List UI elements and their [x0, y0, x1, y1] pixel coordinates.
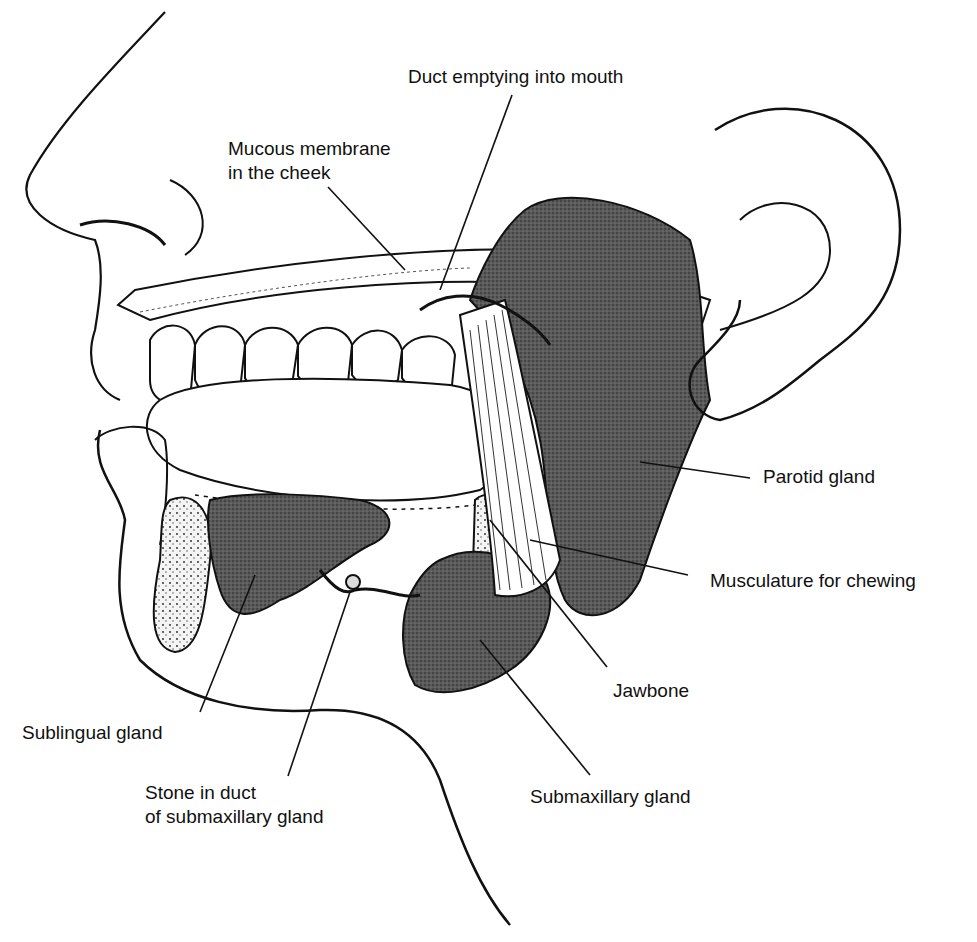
label-stone-in-duct-line2: of submaxillary gland — [145, 806, 323, 828]
label-parotid-gland: Parotid gland — [763, 466, 875, 488]
label-mucous-membrane-line2: in the cheek — [228, 162, 330, 184]
nostril — [80, 221, 165, 245]
label-sublingual-gland: Sublingual gland — [22, 722, 163, 744]
submaxillary-duct — [320, 570, 420, 596]
duct-stone — [346, 575, 360, 589]
sublingual-gland — [208, 494, 389, 614]
label-stone-in-duct-line1: Stone in duct — [145, 782, 256, 804]
label-musculature-for-chewing: Musculature for chewing — [710, 570, 916, 592]
label-jawbone: Jawbone — [613, 680, 689, 702]
nose-wing — [170, 180, 203, 255]
jawbone-front-section — [154, 498, 211, 653]
label-mucous-membrane-line1: Mucous membrane — [228, 138, 391, 160]
ear-inner — [720, 203, 830, 330]
label-duct-emptying-into-mouth: Duct emptying into mouth — [408, 66, 623, 88]
tongue — [147, 379, 511, 501]
ear-outline — [690, 109, 900, 420]
face-profile-outline — [26, 12, 165, 400]
label-submaxillary-gland: Submaxillary gland — [530, 786, 691, 808]
